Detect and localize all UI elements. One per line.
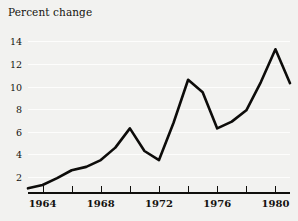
x-tick-label: 1972 — [145, 198, 173, 209]
x-tickmark — [101, 186, 102, 192]
x-tickmark — [275, 186, 276, 192]
x-tick-label: 1980 — [262, 198, 290, 209]
x-tickmark — [159, 186, 160, 192]
chart-figure: Percent change 2468101214 19641968197219… — [0, 0, 298, 221]
data-line-percent-change — [28, 49, 290, 188]
x-tickmark — [246, 186, 247, 192]
x-tickmark — [43, 186, 44, 192]
x-tick-label: 1976 — [203, 198, 231, 209]
x-tick-label: 1968 — [87, 198, 115, 209]
x-tick-label: 1964 — [29, 198, 57, 209]
x-tickmark — [130, 186, 131, 192]
data-series-layer — [0, 0, 298, 221]
x-tickmark — [72, 186, 73, 192]
x-tickmark — [217, 186, 218, 192]
x-tickmark — [188, 186, 189, 192]
